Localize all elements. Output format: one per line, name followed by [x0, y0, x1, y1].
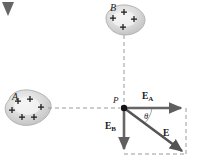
vector-arrow-e-resultant — [124, 108, 182, 151]
diagram-canvas — [0, 0, 199, 165]
label-vector-e-b: EB — [105, 122, 116, 133]
label-body-b: B — [110, 3, 116, 13]
label-angle-theta: θ — [144, 112, 148, 121]
label-field-point-p: P — [113, 96, 119, 105]
label-vector-e-resultant: E — [163, 129, 169, 139]
electric-field-diagram: A B P EA EB E θ — [0, 0, 199, 165]
label-vector-e-b-subscript: B — [111, 125, 116, 133]
page-corner-triangle-icon — [2, 2, 14, 16]
label-body-a: A — [12, 92, 18, 102]
label-vector-e-resultant-symbol: E — [163, 128, 169, 138]
label-vector-e-a: EA — [142, 92, 153, 103]
field-point-dot — [121, 105, 127, 111]
label-vector-e-a-subscript: A — [148, 95, 153, 103]
